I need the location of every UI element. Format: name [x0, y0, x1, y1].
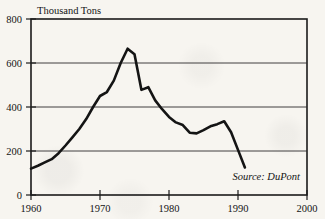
source-annotation: Source: DuPont [232, 171, 301, 182]
chart-page: 0 200 400 600 800 1960 1970 1980 1990 20… [0, 0, 325, 219]
x-axis-tick-labels: 1960 1970 1980 1990 2000 [21, 203, 318, 214]
x-tick-label-1990: 1990 [228, 203, 249, 214]
y-tick-label-0: 0 [17, 190, 22, 201]
y-tick-label-200: 200 [6, 146, 22, 157]
y-axis-title: Thousand Tons [37, 5, 101, 16]
x-tick-label-2000: 2000 [297, 203, 318, 214]
y-tick-label-400: 400 [6, 102, 22, 113]
x-tick-label-1960: 1960 [21, 203, 42, 214]
y-axis-tick-labels: 0 200 400 600 800 [6, 14, 22, 201]
x-tick-label-1980: 1980 [159, 203, 180, 214]
line-chart: 0 200 400 600 800 1960 1970 1980 1990 20… [0, 0, 325, 219]
y-tick-label-600: 600 [6, 58, 22, 69]
x-tick-label-1970: 1970 [90, 203, 111, 214]
y-tick-label-800: 800 [6, 14, 22, 25]
